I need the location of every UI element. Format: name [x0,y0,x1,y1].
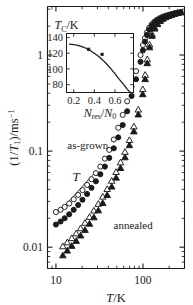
data-point-filled-circle [76,202,81,207]
inset-data-point [88,48,90,50]
data-point-filled-circle [85,191,90,196]
inset-y-tick-label: 80 [53,79,64,90]
data-point-filled-circle [134,77,139,82]
data-point-filled-circle [67,212,72,217]
data-point-filled-circle [89,185,94,190]
inset-y-tick-label: 140 [47,32,63,43]
data-point-open-circle [76,192,81,197]
data-point-open-circle [67,201,72,206]
inset-x-tick-label: 0.2 [67,95,80,106]
data-point-open-circle [120,112,125,117]
x-tick-label: 10 [50,274,62,286]
data-point-filled-circle [93,179,98,184]
data-point-filled-circle [178,10,183,15]
inset-y-tick-label: 100 [47,64,63,75]
y-tick-label: 1 [37,49,43,61]
data-point-filled-circle [53,222,58,227]
data-point-filled-circle [98,172,103,177]
data-point-filled-circle [62,216,67,221]
data-point-filled-circle [111,146,116,151]
data-point-open-circle [80,188,85,193]
data-point-open-circle [134,69,139,74]
data-point-filled-circle [107,155,112,160]
figure-panel: 1010010.10.01 as-grownannealedT T/K(1/T1… [0,0,193,305]
data-point-open-circle [62,204,67,209]
data-point-filled-circle [80,197,85,202]
chart-svg: 1010010.10.01 as-grownannealedT T/K(1/T1… [0,0,193,305]
data-point-filled-circle [138,59,143,64]
x-tick-label: 100 [134,274,152,286]
t-power-law-label: T [73,169,81,184]
data-point-filled-circle [116,135,121,140]
data-point-filled-circle [120,122,125,127]
y-tick-label: 0.01 [23,241,43,253]
as-grown-label: as-grown [67,139,108,151]
data-point-filled-circle [142,39,147,44]
data-point-filled-circle [140,48,145,53]
inset-y-axis-title: TC/K [55,18,79,34]
data-point-open-circle [71,197,76,202]
y-tick-label: 0.1 [29,145,44,157]
data-point-open-circle [125,99,130,104]
data-point-filled-circle [71,207,76,212]
annealed-label: annealed [114,219,154,231]
inset-data-point [101,53,103,55]
data-point-filled-circle [102,164,107,169]
data-point-filled-circle [125,109,130,114]
data-point-filled-circle [129,93,134,98]
inset-x-tick-label: 0.4 [88,95,102,106]
data-point-filled-circle [144,32,149,37]
inset-x-tick-label: 0.6 [108,95,121,106]
inset-y-tick-label: 120 [47,48,63,59]
x-axis-title: T/K [106,291,125,305]
